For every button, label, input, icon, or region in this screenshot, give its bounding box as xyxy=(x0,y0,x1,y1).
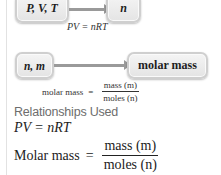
equation-numerator: mass (m) xyxy=(102,138,158,156)
equation-ideal-gas: PV = nRT xyxy=(14,120,71,136)
equation-fraction: mass (m) moles (n) xyxy=(102,138,159,173)
box-molar-mass-label: molar mass xyxy=(138,58,197,73)
box-n-m-label: n, m xyxy=(24,60,45,72)
equation-molar-mass: Molar mass = mass (m) moles (n) xyxy=(14,138,159,173)
flow1-caption: PV = nRT xyxy=(67,21,107,32)
caption-denominator: moles (n) xyxy=(101,92,139,103)
box-n-label: n xyxy=(120,1,127,16)
caption-equals: = xyxy=(88,87,93,97)
arrow-icon xyxy=(69,8,105,11)
caption-numerator: mass (m) xyxy=(102,80,139,92)
arrow-icon xyxy=(54,64,125,67)
box-p-v-t-label: P, V, T xyxy=(26,1,58,16)
box-molar-mass: molar mass xyxy=(127,52,208,79)
caption-lhs: molar mass xyxy=(42,87,83,97)
left-margin-rule xyxy=(6,0,7,175)
equation-denominator: moles (n) xyxy=(102,156,159,173)
box-n: n xyxy=(106,0,141,23)
equation-equals: = xyxy=(86,148,94,164)
box-n-m: n, m xyxy=(15,52,54,79)
box-p-v-t: P, V, T xyxy=(15,0,69,23)
relationships-heading: Relationships Used xyxy=(14,105,118,119)
caption-fraction: mass (m) moles (n) xyxy=(101,80,139,103)
equation-lhs: Molar mass xyxy=(14,148,80,164)
flow2-caption: molar mass = mass (m) moles (n) xyxy=(42,80,140,103)
